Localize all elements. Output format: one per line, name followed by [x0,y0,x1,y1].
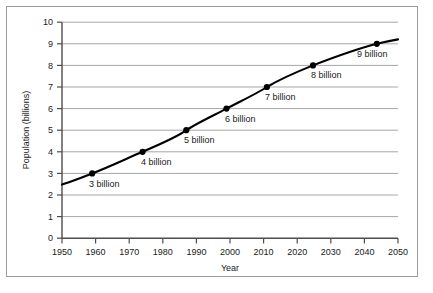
x-axis-title: Year [221,263,239,273]
data-point-marker [310,62,316,68]
y-tick-labels: 10 9 8 7 6 5 4 3 2 1 0 [43,17,53,243]
x-tick-label: 2040 [354,247,374,257]
data-point-label: 6 billion [225,114,256,124]
x-tick-label: 1990 [186,247,206,257]
y-tick-label: 2 [48,190,53,200]
y-tick-label: 4 [48,147,53,157]
data-point-labels: 3 billion 4 billion 5 billion 6 billion … [89,49,388,189]
y-tick-label: 5 [48,125,53,135]
data-point-label: 5 billion [184,135,215,145]
y-tick-label: 7 [48,82,53,92]
x-tick-label: 1960 [86,247,106,257]
x-tick-labels: 1950 1960 1970 1980 1990 2000 2010 2020 … [52,247,408,257]
y-tick-label: 1 [48,212,53,222]
y-tick-label: 3 [48,169,53,179]
x-tick-label: 2000 [220,247,240,257]
y-axis-ticks [57,22,62,238]
figure-container: 10 9 8 7 6 5 4 3 2 1 0 1950 1960 1970 19… [0,0,433,293]
x-tick-label: 2010 [254,247,274,257]
data-point-marker [140,149,146,155]
x-tick-label: 2050 [388,247,408,257]
y-tick-label: 0 [48,233,53,243]
data-point-marker [89,170,95,176]
x-tick-label: 2030 [321,247,341,257]
x-tick-label: 1970 [119,247,139,257]
population-curve [62,39,398,184]
data-point-marker [223,106,229,112]
y-tick-label: 10 [43,17,53,27]
y-tick-label: 6 [48,104,53,114]
data-point-marker [264,84,270,90]
data-point-label: 9 billion [357,49,388,59]
x-tick-label: 2020 [287,247,307,257]
x-tick-label: 1980 [153,247,173,257]
data-point-label: 3 billion [89,179,120,189]
y-tick-label: 8 [48,61,53,71]
data-point-label: 7 billion [265,92,296,102]
x-axis-ticks [62,238,398,243]
data-point-label: 8 billion [311,70,342,80]
y-tick-label: 9 [48,39,53,49]
population-line-chart: 10 9 8 7 6 5 4 3 2 1 0 1950 1960 1970 19… [0,0,433,293]
x-tick-label: 1950 [52,247,72,257]
data-point-label: 4 billion [141,157,172,167]
data-point-marker [374,41,380,47]
y-axis-title: Population (billions) [21,91,31,170]
data-point-marker [183,127,189,133]
